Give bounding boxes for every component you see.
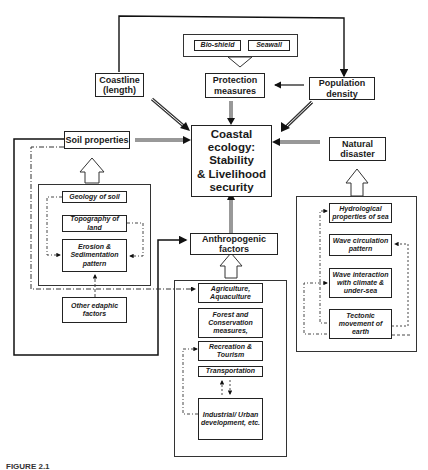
- node-label: Stability: [209, 154, 254, 167]
- node-label: Erosion & Sedimentation pattern: [63, 243, 126, 267]
- node-label: Agriculture, Aquaculture: [199, 285, 262, 301]
- node-label: (length): [103, 85, 136, 95]
- node-soil-properties: Soil properties: [64, 131, 130, 149]
- node-label: measures: [214, 86, 256, 96]
- node-other-edaphic: Other edaphic factors: [62, 297, 127, 323]
- node-label: Topography of land: [63, 215, 126, 231]
- node-label: Industrial/ Urban development, etc.: [199, 411, 262, 427]
- node-label: Other edaphic factors: [63, 302, 126, 318]
- node-label: Population: [319, 78, 366, 88]
- node-label: Transportation: [206, 367, 255, 375]
- node-label: Recreation & Tourism: [199, 343, 262, 359]
- node-forest-conservation: Forest and Conservation measures,: [198, 308, 263, 338]
- figure-caption: FIGURE 2.1: [6, 462, 50, 470]
- node-label: Geology of soil: [69, 193, 120, 201]
- node-label: Forest and Conservation measures,: [199, 311, 262, 335]
- node-label: Coastal: [211, 128, 253, 141]
- node-label: Natural: [342, 139, 373, 149]
- node-anthropogenic-factors: Anthropogenic factors: [190, 233, 278, 255]
- node-label: security: [209, 181, 253, 194]
- node-wave-interaction: Wave interaction with climate & under-se…: [329, 268, 392, 298]
- node-topography: Topography of land: [62, 215, 127, 232]
- node-label: disaster: [340, 149, 375, 159]
- node-erosion-sedimentation: Erosion & Sedimentation pattern: [62, 239, 127, 272]
- node-label: Wave circulation pattern: [330, 237, 391, 253]
- node-seawall: Seawall: [248, 40, 290, 51]
- node-label: Wave interaction with climate & under-se…: [330, 271, 391, 295]
- node-transportation: Transportation: [198, 366, 263, 377]
- node-agriculture: Agriculture, Aquaculture: [198, 283, 263, 303]
- node-label: ecology:: [208, 141, 255, 154]
- node-label: Coastline: [99, 75, 140, 85]
- node-protection-measures: Protection measures: [205, 73, 265, 98]
- node-label: Anthropogenic: [202, 234, 266, 244]
- node-label: Protection: [213, 75, 258, 85]
- node-coastline: Coastline (length): [95, 73, 144, 97]
- node-recreation-tourism: Recreation & Tourism: [198, 341, 263, 361]
- node-label: Bio-shield: [201, 41, 235, 49]
- node-label: Soil properties: [65, 135, 128, 145]
- node-coastal-ecology: Coastal ecology: Stability & Livelihood …: [191, 125, 272, 197]
- node-industrial-urban: Industrial/ Urban development, etc.: [198, 398, 263, 440]
- node-label: & Livelihood: [197, 168, 266, 181]
- node-population-density: Population density: [309, 77, 375, 100]
- node-geology-of-soil: Geology of soil: [62, 191, 127, 203]
- node-tectonic-movement: Tectonic movement of earth: [329, 309, 392, 339]
- node-label: factors: [219, 244, 249, 254]
- node-hydrological: Hydrological properties of sea: [329, 203, 392, 223]
- node-natural-disaster: Natural disaster: [329, 137, 386, 161]
- node-label: Tectonic movement of earth: [330, 312, 391, 336]
- node-wave-circulation: Wave circulation pattern: [329, 234, 392, 256]
- node-label: density: [326, 89, 358, 99]
- node-label: Seawall: [256, 41, 282, 49]
- node-bio-shield: Bio-shield: [194, 40, 241, 51]
- node-label: Hydrological properties of sea: [330, 205, 391, 221]
